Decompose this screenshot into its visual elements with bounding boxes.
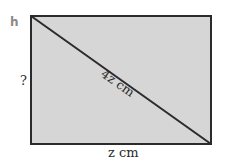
height-unknown-label: ?	[20, 73, 27, 88]
width-label: z cm	[108, 145, 139, 160]
corner-label: h	[10, 15, 19, 29]
